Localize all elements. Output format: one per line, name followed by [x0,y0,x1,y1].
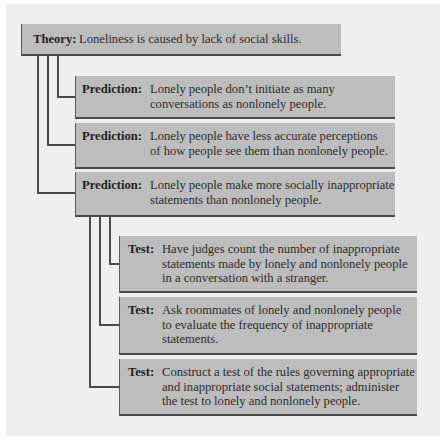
connector-pred3-test2-h [99,324,120,326]
test-box-1: Test: Have judges count the number of in… [119,236,417,293]
prediction-text-line: conversations as nonlonely people. [150,97,326,112]
prediction-text-line: of how people see them than nonlonely pe… [150,144,388,159]
connector-theory-pred3-h [37,192,76,194]
prediction-text-line: Lonely people make more socially inappro… [150,178,394,193]
test-text-line: to evaluate the frequency of inappropria… [162,318,373,333]
test-text-line: statements made by lonely and nonlonely … [162,257,408,272]
test-text-line: the test to lonely and nonlonely people. [162,394,360,409]
theory-label: Theory: [33,32,76,47]
prediction-label: Prediction: [82,129,142,144]
test-text-line: Have judges count the number of inapprop… [162,242,400,257]
prediction-box-1: Prediction: Lonely people don’t initiate… [75,76,395,119]
test-label: Test: [128,365,154,380]
prediction-text-line: statements than nonlonely people. [150,193,321,208]
prediction-text-line: Lonely people have less accurate percept… [150,129,378,144]
test-label: Test: [128,303,154,318]
connector-theory-pred1 [57,55,59,97]
connector-pred3-test3-h [89,386,120,388]
test-box-3: Test: Construct a test of the rules gove… [119,359,417,416]
test-text-line: in a conversation with a stranger. [162,271,328,286]
connector-pred3-test3 [89,216,91,387]
test-text-line: statements. [162,332,218,347]
test-text-line: and inappropriate social statements; adm… [162,380,399,395]
connector-pred3-test1 [109,216,111,264]
prediction-label: Prediction: [82,82,142,97]
prediction-box-3: Prediction: Lonely people make more soci… [75,172,395,217]
theory-box: Theory: Loneliness is caused by lack of … [21,24,341,56]
connector-theory-pred1-h [57,96,76,98]
prediction-label: Prediction: [82,178,142,193]
test-text-line: Construct a test of the rules governing … [162,365,415,380]
theory-text: Loneliness is caused by lack of social s… [79,32,301,47]
prediction-text-line: Lonely people don’t initiate as many [150,82,335,97]
test-text-line: Ask roommates of lonely and nonlonely pe… [162,303,401,318]
test-label: Test: [128,242,154,257]
test-box-2: Test: Ask roommates of lonely and nonlon… [119,297,417,355]
connector-theory-pred2 [47,55,49,145]
connector-theory-pred2-h [47,144,76,146]
prediction-box-2: Prediction: Lonely people have less accu… [75,123,395,169]
connector-pred3-test2 [99,216,101,325]
connector-theory-pred3 [37,55,39,193]
